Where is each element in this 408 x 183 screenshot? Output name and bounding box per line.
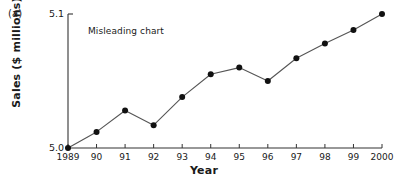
data-point-marker bbox=[265, 78, 271, 84]
data-point-marker bbox=[350, 27, 356, 33]
data-point-marker bbox=[94, 129, 100, 135]
data-point-marker bbox=[122, 107, 128, 113]
data-point-marker bbox=[293, 55, 299, 61]
data-point-marker bbox=[65, 145, 71, 151]
data-point-marker bbox=[151, 122, 157, 128]
figure-panel: (a) Sales ($ millions) Year 5.05.1 19899… bbox=[0, 0, 408, 183]
data-series-line bbox=[68, 14, 382, 148]
data-point-marker bbox=[236, 65, 242, 71]
line-chart-plot bbox=[0, 0, 408, 183]
data-point-marker bbox=[208, 71, 214, 77]
data-point-marker bbox=[322, 40, 328, 46]
data-point-marker bbox=[179, 94, 185, 100]
data-point-marker bbox=[379, 11, 385, 17]
